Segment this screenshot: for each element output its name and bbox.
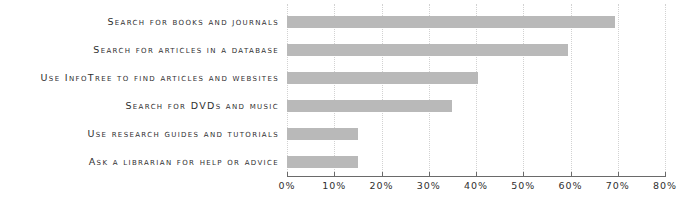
x-tick-50pct bbox=[523, 172, 524, 177]
category-label-wrap: Search for articles in a database bbox=[287, 36, 288, 64]
category-label: Use InfoTree to find articles and websit… bbox=[0, 64, 279, 92]
bar-3 bbox=[287, 72, 478, 84]
x-tick-label: 80% bbox=[640, 180, 678, 191]
bar-row bbox=[287, 64, 665, 92]
horizontal-bar-chart: Search for books and journalsSearch for … bbox=[0, 0, 678, 207]
bar-6 bbox=[287, 156, 358, 168]
bar-5 bbox=[287, 128, 358, 140]
x-tick-label: 50% bbox=[498, 180, 548, 191]
x-tick-label: 20% bbox=[357, 180, 407, 191]
x-tick-30pct bbox=[429, 172, 430, 177]
category-label: Search for articles in a database bbox=[0, 36, 279, 64]
x-tick-label: 30% bbox=[404, 180, 454, 191]
x-tick-80pct bbox=[665, 172, 666, 177]
category-label: Use research guides and tutorials bbox=[0, 120, 279, 148]
bar-1 bbox=[287, 16, 615, 28]
plot-area: Search for books and journalsSearch for … bbox=[287, 0, 665, 176]
x-tick-60pct bbox=[571, 172, 572, 177]
x-tick-70pct bbox=[618, 172, 619, 177]
bar-row bbox=[287, 92, 665, 120]
x-tick-label: 40% bbox=[451, 180, 501, 191]
x-tick-label: 10% bbox=[309, 180, 359, 191]
x-tick-40pct bbox=[476, 172, 477, 177]
category-label-wrap: Search for books and journals bbox=[287, 8, 288, 36]
category-label: Ask a librarian for help or advice bbox=[0, 148, 279, 176]
category-label: Search for DVDs and music bbox=[0, 92, 279, 120]
bar-row bbox=[287, 120, 665, 148]
gridline-80pct bbox=[665, 4, 667, 176]
x-tick-label: 0% bbox=[262, 180, 312, 191]
x-tick-0pct bbox=[287, 172, 288, 177]
x-tick-20pct bbox=[382, 172, 383, 177]
x-tick-label: 60% bbox=[546, 180, 596, 191]
bar-row bbox=[287, 36, 665, 64]
x-tick-10pct bbox=[334, 172, 335, 177]
category-label-wrap: Search for DVDs and music bbox=[287, 92, 288, 120]
bar-row bbox=[287, 8, 665, 36]
bar-2 bbox=[287, 44, 568, 56]
category-label-wrap: Use research guides and tutorials bbox=[287, 120, 288, 148]
bar-4 bbox=[287, 100, 452, 112]
category-label: Search for books and journals bbox=[0, 8, 279, 36]
x-tick-label: 70% bbox=[593, 180, 643, 191]
category-label-wrap: Use InfoTree to find articles and websit… bbox=[287, 64, 288, 92]
